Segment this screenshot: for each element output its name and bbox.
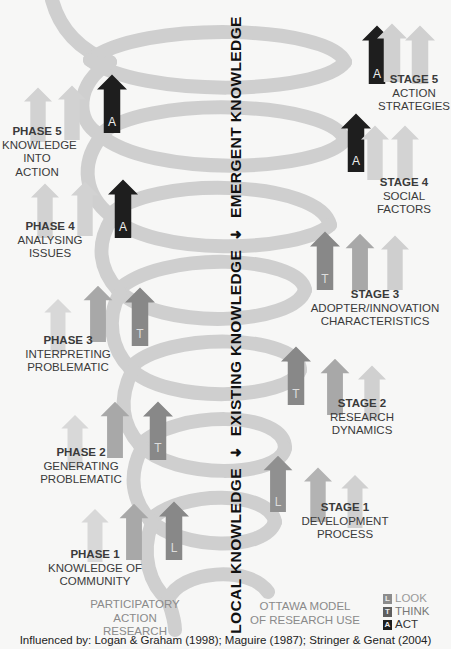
phase-3-label: PHASE 3 INTERPRETING PROBLEMATIC: [25, 334, 111, 375]
think-marker: T: [292, 387, 300, 401]
up-arrow-icon: ➜: [230, 226, 242, 242]
look-swatch-icon: L: [383, 594, 392, 604]
phase-2-label: PHASE 2 GENERATING PROBLEMATIC: [38, 446, 124, 487]
phase-5-label: PHASE 5 KNOWLEDGE INTO ACTION: [2, 125, 72, 179]
stage-5-label: STAGE 5 ACTION STRATEGIES: [378, 73, 450, 114]
look-marker: L: [171, 541, 178, 555]
think-marker: T: [321, 272, 329, 286]
axis-existing: EXISTING KNOWLEDGE: [227, 250, 244, 436]
think-marker: T: [154, 441, 162, 455]
phase-1-label: PHASE 1 KNOWLEDGE OF COMMUNITY: [45, 548, 145, 589]
legend-look: L LOOK: [383, 592, 430, 605]
stage-1-label: STAGE 1 DEVELOPMENT PROCESS: [300, 501, 390, 542]
act-marker: A: [108, 115, 116, 129]
legend-think: T THINK: [383, 605, 430, 618]
participatory-action-research-title: PARTICIPATORY ACTION RESEARCH: [85, 598, 185, 639]
stage-4-label: STAGE 4 SOCIAL FACTORS: [368, 176, 440, 217]
think-swatch-icon: T: [383, 607, 392, 617]
look-marker: L: [275, 495, 282, 509]
act-marker: A: [352, 154, 360, 168]
legend-act: A ACT: [383, 618, 430, 631]
knowledge-axis: LOCAL KNOWLEDGE ➜ EXISTING KNOWLEDGE ➜ E…: [227, 16, 245, 634]
phase-4-label: PHASE 4 ANALYSING ISSUES: [15, 220, 85, 261]
act-swatch-icon: A: [383, 620, 392, 630]
stage-3-label: STAGE 3 ADOPTER/INNOVATION CHARACTERISTI…: [310, 288, 440, 329]
legend: L LOOK T THINK A ACT: [383, 592, 430, 631]
ottawa-model-title: OTTAWA MODEL OF RESEARCH USE: [250, 600, 360, 627]
think-marker: T: [136, 327, 144, 341]
footer-citation: Influenced by: Logan & Graham (1998); Ma…: [0, 634, 451, 646]
axis-local: LOCAL KNOWLEDGE: [227, 468, 244, 634]
act-marker: A: [119, 220, 127, 234]
stage-2-label: STAGE 2 RESEARCH DYNAMICS: [322, 397, 402, 438]
up-arrow-icon: ➜: [230, 444, 242, 460]
axis-emergent: EMERGENT KNOWLEDGE: [227, 16, 244, 218]
